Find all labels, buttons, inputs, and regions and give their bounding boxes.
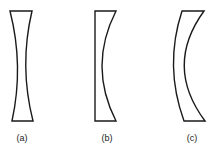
lens-a-biconcave — [10, 11, 33, 121]
label-c: (c) — [187, 133, 198, 143]
label-b: (b) — [102, 133, 113, 143]
lens-b-plano-concave — [95, 11, 116, 121]
lens-diagram: (a) (b) (c) — [0, 0, 211, 148]
lens-c-meniscus — [173, 11, 205, 121]
label-a: (a) — [17, 133, 28, 143]
